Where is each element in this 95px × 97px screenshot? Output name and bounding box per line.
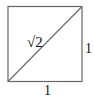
bottom-side-label: 1 [44,83,51,97]
diagonal-line [8,7,82,82]
square-diagram: √2 1 1 [0,0,95,97]
diagonal-label: √2 [27,34,43,50]
right-side-label: 1 [85,41,92,56]
